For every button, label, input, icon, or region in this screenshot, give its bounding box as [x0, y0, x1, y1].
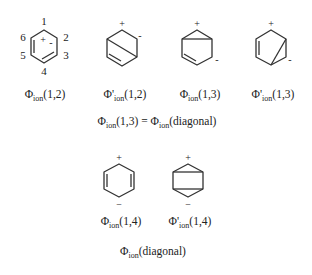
plus-charge: +: [116, 152, 122, 163]
structure-label: Φ'ion(1,2): [104, 88, 147, 103]
atom-number-2: 2: [63, 31, 69, 43]
minus-charge: -: [215, 54, 218, 65]
hexagon-phi-prime-ion-1-2: [107, 30, 137, 66]
minus-charge: -: [49, 37, 52, 48]
hexagon-phi-ion-1-3: [182, 30, 212, 65]
plus-charge: +: [194, 18, 200, 29]
atom-number-1: 1: [41, 15, 47, 27]
plus-charge: +: [40, 34, 46, 45]
structure-label: Φion(1,3): [180, 88, 221, 103]
structure-label: Φion(1,4): [101, 215, 142, 230]
hexagon-phi-prime-ion-1-4: [173, 164, 203, 197]
hexagon-phi-ion-1-4: [104, 164, 134, 197]
structure-label: Φ'ion(1,3): [252, 88, 295, 103]
atom-number-4: 4: [41, 65, 47, 77]
structures-drawing: [0, 0, 312, 275]
atom-number-3: 3: [63, 49, 69, 61]
caption: Φion(diagonal): [120, 245, 186, 260]
plus-charge: +: [185, 152, 191, 163]
minus-charge: −: [116, 199, 122, 210]
structure-label: Φion(1,2): [25, 88, 66, 103]
minus-charge: -: [138, 30, 141, 41]
equation: Φion(1,3) = Φion(diagonal): [98, 115, 217, 130]
minus-charge: −: [185, 199, 191, 210]
plus-charge: +: [119, 18, 125, 29]
atom-number-5: 5: [20, 49, 26, 61]
minus-charge: -: [288, 54, 291, 65]
structure-label: Φ'ion(1,4): [169, 215, 212, 230]
hexagon-phi-prime-ion-1-3: [256, 30, 286, 65]
atom-number-6: 6: [20, 31, 26, 43]
plus-charge: +: [268, 18, 274, 29]
